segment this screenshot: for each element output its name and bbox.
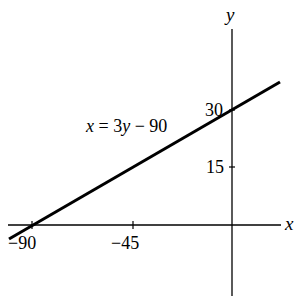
equation-annotation: x = 3y − 90 xyxy=(86,117,167,135)
equation-mid: = 3 xyxy=(94,116,122,136)
y-axis-label: y xyxy=(226,5,234,24)
chart-canvas xyxy=(0,0,302,304)
equation-rhs: − 90 xyxy=(130,116,167,136)
x-axis-label: x xyxy=(285,214,293,233)
x-tick-label-neg90: −90 xyxy=(8,234,36,252)
y-tick-label-15: 15 xyxy=(206,158,224,176)
data-line xyxy=(9,82,280,239)
equation-var: y xyxy=(122,116,130,136)
x-tick-label-neg45: −45 xyxy=(111,234,139,252)
y-tick-label-30: 30 xyxy=(205,101,223,119)
equation-lhs: x xyxy=(86,116,94,136)
